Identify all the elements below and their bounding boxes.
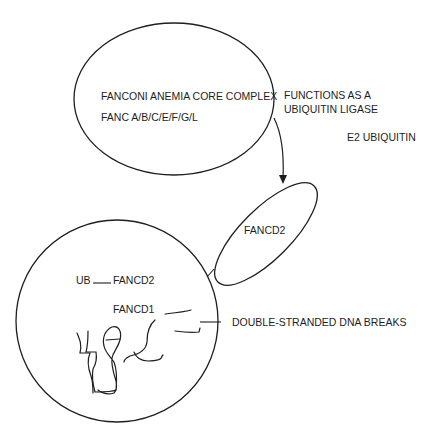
diagram-shapes: [0, 0, 430, 438]
function-note-line2: UBIQUITIN LIGASE: [284, 103, 378, 115]
dna-fragment-1: [165, 310, 191, 314]
dna-fragment-3: [124, 320, 155, 362]
fancd1-label: FANCD1: [113, 303, 154, 315]
function-note-line1: FUNCTIONS AS A: [284, 89, 371, 101]
dna-breaks-label: DOUBLE-STRANDED DNA BREAKS: [232, 316, 406, 328]
ubiquitination-arrow: [274, 118, 283, 178]
arrowhead-icon: [279, 175, 287, 184]
fancd2-ellipse-label: FANCD2: [244, 224, 285, 236]
nucleus-circle: [16, 220, 218, 422]
ub-fancd2-label: FANCD2: [113, 274, 154, 286]
core-complex-title: FANCONI ANEMIA CORE COMPLEX: [101, 90, 277, 102]
dna-coil-4: [106, 339, 120, 340]
dna-fragment-2: [175, 328, 200, 332]
ub-label: UB: [76, 274, 91, 286]
fanconi-pathway-diagram: FANCONI ANEMIA CORE COMPLEX FANC A/B/C/E…: [0, 0, 430, 438]
dna-coil-3: [98, 327, 121, 394]
e2-ubiquitin-label: E2 UBIQUITIN: [347, 131, 416, 143]
entry-tick: [207, 269, 214, 277]
core-complex-members: FANC A/B/C/E/F/G/L: [101, 111, 198, 123]
dna-coil-1: [77, 333, 93, 393]
dna-strands: [77, 310, 200, 394]
